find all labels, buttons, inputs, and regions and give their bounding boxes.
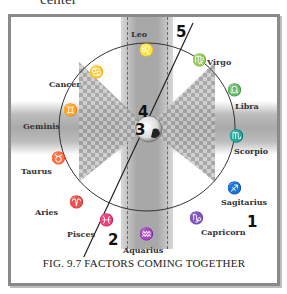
aries-icon: ♈ xyxy=(69,195,84,209)
capricorn-icon: ♑ xyxy=(189,211,204,225)
marker-2: 2 xyxy=(108,231,118,249)
aquarius-icon: ♒ xyxy=(139,227,154,241)
virgo-icon: ♍ xyxy=(192,53,207,67)
label-geminis: Geminis xyxy=(23,121,60,131)
label-aquarius: Aquarius xyxy=(123,245,163,255)
label-cancer: Cancer xyxy=(49,79,81,89)
label-taurus: Taurus xyxy=(21,166,52,176)
label-virgo: Virgo xyxy=(207,57,231,67)
scorpio-icon: ♏ xyxy=(229,129,244,143)
label-capricorn: Capricorn xyxy=(201,227,246,237)
label-libra: Libra xyxy=(235,101,259,111)
figure-frame: Leo ♌ Virgo ♍ Libra ♎ Scorpio ♏ Sagitari… xyxy=(8,14,280,286)
cancer-icon: ♋ xyxy=(89,65,104,79)
marker-1: 1 xyxy=(247,213,257,231)
label-sagitarius: Sagitarius xyxy=(221,197,267,207)
page-text-fragment: center xyxy=(40,0,77,8)
marker-3: 3 xyxy=(135,121,145,139)
marker-4: 4 xyxy=(138,103,148,121)
label-aries: Aries xyxy=(35,207,58,217)
geminis-icon: ♊ xyxy=(63,103,78,117)
sagitarius-icon: ♐ xyxy=(227,181,242,195)
label-leo: Leo xyxy=(131,29,147,39)
leo-icon: ♌ xyxy=(139,43,154,57)
taurus-icon: ♉ xyxy=(51,151,66,165)
label-scorpio: Scorpio xyxy=(234,146,268,156)
libra-icon: ♎ xyxy=(227,83,242,97)
label-pisces: Pisces xyxy=(67,229,95,239)
marker-5: 5 xyxy=(176,23,186,41)
pisces-icon: ♓ xyxy=(99,213,114,227)
figure-caption: FIG. 9.7 FACTORS COMING TOGETHER xyxy=(11,257,277,269)
